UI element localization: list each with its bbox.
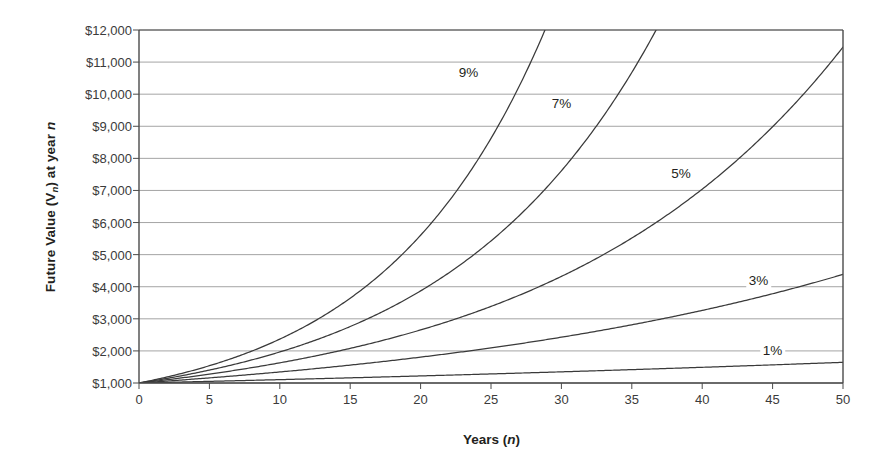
series-label-1pct: 1% bbox=[760, 343, 786, 358]
x-axis-title-italic-n: n bbox=[507, 432, 515, 447]
x-tick-label: 45 bbox=[743, 392, 803, 407]
x-axis-title-tail: ) bbox=[516, 432, 521, 447]
series-line-9pct bbox=[139, 0, 581, 383]
future-value-chart: Future Value (Vn) at year n $1,000$2,000… bbox=[0, 0, 872, 468]
x-axis-title: Years (n) bbox=[139, 432, 844, 447]
series-line-1pct bbox=[139, 362, 843, 383]
gridlines bbox=[139, 30, 843, 383]
x-tick-label: 25 bbox=[461, 392, 521, 407]
series-line-5pct bbox=[139, 47, 843, 383]
series-line-7pct bbox=[139, 0, 702, 383]
y-axis-tick-marks bbox=[133, 30, 139, 383]
x-tick-label: 5 bbox=[179, 392, 239, 407]
x-tick-label: 30 bbox=[531, 392, 591, 407]
x-axis-tick-marks bbox=[139, 383, 843, 389]
x-tick-label: 10 bbox=[250, 392, 310, 407]
series-lines bbox=[139, 0, 843, 383]
x-tick-label: 50 bbox=[813, 392, 872, 407]
x-tick-label: 0 bbox=[109, 392, 169, 407]
series-label-9pct: 9% bbox=[456, 66, 482, 81]
plot-frame bbox=[139, 30, 843, 383]
x-tick-label: 15 bbox=[320, 392, 380, 407]
x-axis-title-text: Years ( bbox=[463, 432, 507, 447]
x-tick-label: 35 bbox=[602, 392, 662, 407]
x-tick-label: 40 bbox=[672, 392, 732, 407]
series-label-5pct: 5% bbox=[668, 167, 694, 182]
x-tick-label: 20 bbox=[391, 392, 451, 407]
series-label-3pct: 3% bbox=[746, 274, 772, 289]
series-label-7pct: 7% bbox=[549, 96, 575, 111]
